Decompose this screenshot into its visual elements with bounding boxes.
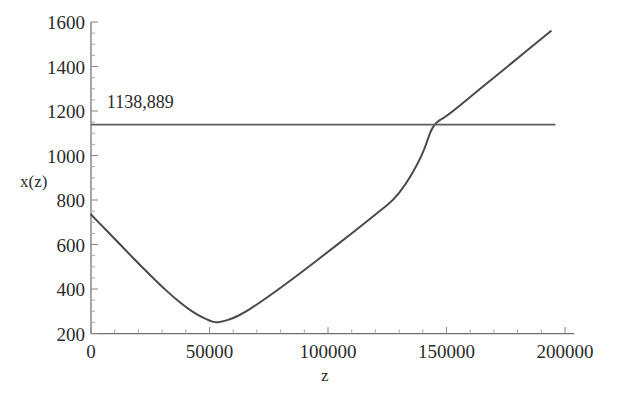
x-tick-label-50000: 50000	[186, 341, 234, 362]
y-tick-label-1400: 1400	[47, 57, 85, 78]
y-tick-label-1200: 1200	[47, 101, 85, 122]
reference-value-label: 1138,889	[107, 92, 174, 112]
y-tick-label-1000: 1000	[47, 146, 85, 167]
x-tick-label-100000: 100000	[300, 341, 357, 362]
y-tick-label-1600: 1600	[47, 12, 85, 33]
x-tick-label-0: 0	[86, 341, 96, 362]
y-tick-label-800: 800	[57, 190, 86, 211]
chart-figure: 2004006008001000120014001600 05000010000…	[0, 0, 621, 402]
y-axis-title: x(z)	[20, 172, 47, 191]
x-tick-label-200000: 200000	[537, 341, 594, 362]
x-tick-label-150000: 150000	[418, 341, 475, 362]
y-tick-label-200: 200	[57, 324, 86, 345]
y-tick-label-400: 400	[57, 279, 86, 300]
x-axis-title: z	[321, 366, 329, 385]
y-tick-label-600: 600	[57, 235, 86, 256]
line-chart: 2004006008001000120014001600 05000010000…	[0, 0, 621, 402]
